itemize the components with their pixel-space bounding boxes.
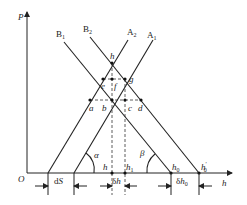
label-base-h0-prime: h′0 xyxy=(201,161,208,173)
label-point-b: b xyxy=(102,103,107,113)
point-a xyxy=(88,98,91,101)
label-point-g: g xyxy=(129,74,134,84)
label-a1: A1 xyxy=(147,30,157,41)
label-ds: dS xyxy=(54,176,64,186)
label-a2: A2 xyxy=(127,27,137,38)
y-axis-label: P xyxy=(17,12,24,22)
origin-label: O xyxy=(18,174,25,184)
label-base-h0: h0 xyxy=(172,162,180,173)
angle-beta-arc xyxy=(147,154,155,173)
point-top-h xyxy=(110,61,113,64)
label-point-f: f xyxy=(114,81,118,91)
label-dh: δh xyxy=(112,176,121,186)
point-base-h xyxy=(110,171,113,174)
label-point-a: a xyxy=(89,103,94,113)
label-base-h1: h1 xyxy=(126,162,134,173)
point-g xyxy=(123,77,126,80)
label-b1: B1 xyxy=(56,29,65,40)
label-point-e: e xyxy=(101,81,105,91)
point-b xyxy=(110,98,113,101)
label-point-d: d xyxy=(138,103,143,113)
label-beta: β xyxy=(139,148,145,158)
label-dh0: δh0 xyxy=(176,176,188,187)
line-b1 xyxy=(64,42,171,173)
label-b2: B2 xyxy=(83,24,92,35)
label-point-top-h: h xyxy=(110,51,115,61)
label-alpha: α xyxy=(94,150,99,160)
rolling-force-diagram: P h O B1 B2 A2 A1 h g e f a b c d h h1 h… xyxy=(0,0,247,205)
label-base-h: h xyxy=(103,162,108,172)
label-point-c: c xyxy=(128,103,132,113)
x-axis-label: h xyxy=(222,178,227,188)
point-c xyxy=(123,98,126,101)
point-d xyxy=(139,98,142,101)
